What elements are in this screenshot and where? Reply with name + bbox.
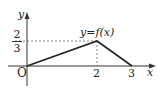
y-tick-two-thirds: 2 3 bbox=[12, 29, 22, 54]
function-line bbox=[27, 41, 132, 66]
origin-label: O bbox=[17, 67, 27, 79]
y-axis-arrow-icon bbox=[25, 12, 30, 19]
x-tick-2: 2 bbox=[93, 68, 100, 79]
y-tick-numerator: 2 bbox=[12, 29, 22, 40]
function-label: y=f(x) bbox=[80, 27, 114, 38]
x-tick-3: 3 bbox=[128, 68, 135, 79]
y-tick-denominator: 3 bbox=[12, 43, 22, 54]
y-axis-label: y bbox=[18, 9, 24, 20]
x-axis-label: x bbox=[147, 67, 153, 78]
